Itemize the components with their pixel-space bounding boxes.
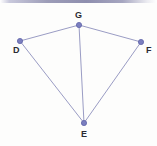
vertex-label-f: F — [146, 46, 152, 55]
geometry-figure — [0, 0, 157, 146]
edges-group — [20, 25, 141, 123]
edge-fe — [84, 42, 141, 123]
vertex-point-f — [138, 39, 143, 44]
edge-dg — [20, 25, 79, 41]
edge-de — [20, 41, 84, 123]
vertex-label-d: D — [13, 46, 20, 55]
vertex-label-g: G — [75, 11, 82, 20]
diagram-canvas: DGFE — [0, 0, 157, 146]
edge-ge — [79, 25, 84, 123]
vertex-point-e — [81, 120, 86, 125]
edge-gf — [79, 25, 141, 42]
vertex-point-d — [17, 38, 22, 43]
vertex-point-g — [76, 22, 81, 27]
vertex-label-e: E — [81, 130, 87, 139]
